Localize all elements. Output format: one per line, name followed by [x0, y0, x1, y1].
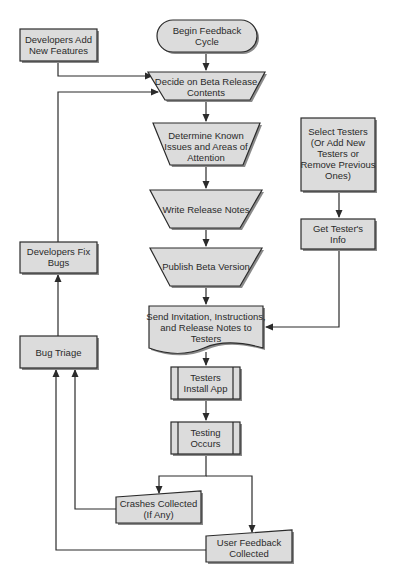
node-begin-feedback-cycle: Begin Feedback Cycle: [157, 20, 259, 54]
edge-testing-feedback: [206, 476, 252, 532]
node-label: Cycle: [195, 36, 219, 47]
node-determine-known-issues: Determine Known Issues and Areas of Atte…: [153, 123, 262, 167]
node-label: Developers Fix: [27, 246, 91, 257]
edge-testing-crashes: [159, 454, 206, 493]
node-send-invitation: Send Invitation, Instructions, and Relea…: [146, 306, 265, 355]
node-label: Decide on Beta Release: [155, 76, 257, 87]
node-label: Begin Feedback: [173, 25, 242, 36]
node-label: Attention: [187, 152, 225, 163]
node-label: Testers: [190, 372, 221, 383]
node-select-testers: Select Testers (Or Add New Testers or Re…: [301, 118, 377, 193]
node-label: New Features: [29, 45, 88, 56]
node-label: (If Any): [143, 509, 173, 520]
node-label: Info: [330, 234, 346, 245]
node-label: Issues and Areas of: [164, 141, 248, 152]
node-label: Write Release Notes: [163, 204, 250, 215]
node-label: Collected: [229, 548, 269, 559]
edge-crashes-triage: [75, 370, 116, 509]
node-label: Contents: [187, 87, 225, 98]
node-label: Occurs: [190, 438, 220, 449]
node-label: Bugs: [48, 257, 70, 268]
node-label: Remove Previous: [301, 159, 376, 170]
node-label: Developers Add: [25, 34, 92, 45]
node-label: Testers: [191, 333, 222, 344]
node-decide-release-contents: Decide on Beta Release Contents: [148, 72, 267, 102]
node-publish-beta-version: Publish Beta Version: [150, 248, 264, 288]
node-label: Get Tester's: [313, 223, 363, 234]
node-label: User Feedback: [217, 537, 282, 548]
node-label: Ones): [325, 170, 351, 181]
node-label: and Release Notes to: [160, 322, 251, 333]
node-label: (Or Add New: [311, 137, 366, 148]
node-label: Send Invitation, Instructions,: [146, 311, 265, 322]
node-testing-occurs: Testing Occurs: [171, 422, 242, 456]
node-label: Crashes Collected: [120, 498, 198, 509]
node-label: Testing: [190, 427, 220, 438]
node-label: Install App: [184, 383, 228, 394]
node-write-release-notes: Write Release Notes: [150, 190, 264, 230]
node-label: Determine Known: [168, 130, 244, 141]
node-developers-fix-bugs: Developers Fix Bugs: [20, 242, 99, 275]
node-label: Testers or: [317, 148, 359, 159]
node-testers-install-app: Testers Install App: [171, 367, 242, 401]
edge-devadd-decide: [58, 61, 152, 76]
edge-devfix-decide: [58, 92, 158, 242]
node-user-feedback-collected: User Feedback Collected: [206, 530, 294, 564]
flowchart-canvas: Begin Feedback Cycle Developers Add New …: [0, 0, 394, 581]
node-developers-add-features: Developers Add New Features: [20, 29, 99, 63]
node-get-tester-info: Get Tester's Info: [301, 219, 377, 251]
edge-info-send: [266, 249, 339, 327]
node-label: Bug Triage: [36, 347, 82, 358]
node-label: Publish Beta Version: [162, 261, 250, 272]
node-crashes-collected: Crashes Collected (If Any): [116, 491, 203, 525]
node-label: Select Testers: [308, 126, 368, 137]
node-bug-triage: Bug Triage: [20, 336, 99, 370]
